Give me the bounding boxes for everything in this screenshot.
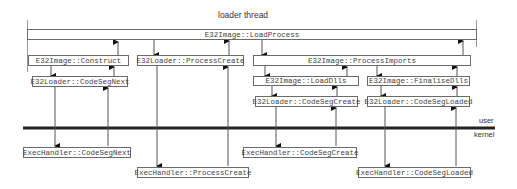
codeseg-loaded-user-box: E32Loader::CodeSegLoaded [367,96,470,107]
codeseg-next-user-box: E32Loader::CodeSegNext [32,76,128,87]
load-process-box: E32Image::LoadProcess [27,29,477,40]
kernel-label: kernel [474,130,494,139]
codeseg-loaded-kernel-box: ExecHandler::CodeSegLoaded [358,167,471,178]
thread-title: loader thread [218,10,268,20]
load-dlls-box: E32Image::LoadDlls [253,76,359,86]
codeseg-create-user-box: E32Loader::CodeSegCreate [255,96,358,107]
process-create-user-box: E32Loader::ProcessCreate [137,55,244,66]
construct-box: E32Image::Construct [28,55,129,66]
loader-call-diagram: loader thread E32Image::LoadProcess E32I… [0,0,517,189]
codeseg-create-kernel-box: ExecHandler::CodeSegCreate [243,147,357,158]
finalise-dlls-box: E32Image::FinaliseDlls [367,76,470,86]
process-create-kernel-box: ExecHandler::ProcessCreate [137,167,249,178]
user-label: user [479,116,494,125]
codeseg-next-kernel-box: ExecHandler::CodeSegNext [23,147,131,158]
process-imports-box: E32Image::ProcessImports [253,55,471,66]
